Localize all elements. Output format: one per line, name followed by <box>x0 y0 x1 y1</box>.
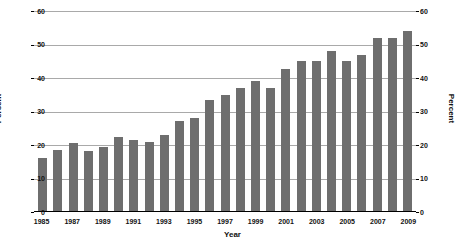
x-tick-label: 1991 <box>118 218 148 226</box>
y-tick-mark-left <box>31 145 34 146</box>
bar-slot <box>187 11 202 212</box>
y-tick-mark-right <box>416 145 419 146</box>
y-tick-label-right: 20 <box>420 142 446 149</box>
bar[interactable] <box>38 158 47 212</box>
bar[interactable] <box>266 88 275 212</box>
bar-slot <box>369 11 384 212</box>
bar-slot <box>339 11 354 212</box>
bar-slot <box>157 11 172 212</box>
bar-series <box>34 11 416 212</box>
y-tick-label-right: 60 <box>420 8 446 15</box>
y-tick-mark-left <box>31 179 34 180</box>
x-axis-line <box>34 211 416 213</box>
bar-slot <box>309 11 324 212</box>
bar[interactable] <box>69 143 78 212</box>
bar-slot <box>126 11 141 212</box>
bar[interactable] <box>281 69 290 212</box>
y-tick-mark-right <box>416 78 419 79</box>
y-tick-label-right: 0 <box>420 209 446 216</box>
bar-slot <box>248 11 263 212</box>
y-tick-label-right: 50 <box>420 41 446 48</box>
bar[interactable] <box>84 151 93 212</box>
y-tick-mark-right <box>416 112 419 113</box>
bar[interactable] <box>205 100 214 212</box>
x-tick-label: 1985 <box>27 218 57 226</box>
bar[interactable] <box>373 38 382 212</box>
bar[interactable] <box>251 81 260 212</box>
bar[interactable] <box>236 88 245 212</box>
bar[interactable] <box>357 55 366 212</box>
y-tick-mark-right <box>416 212 419 213</box>
bar-slot <box>263 11 278 212</box>
y-tick-label-right: 10 <box>420 175 446 182</box>
bar-chart: 0102030405060 0102030405060 198519871989… <box>0 0 465 242</box>
bar[interactable] <box>403 31 412 212</box>
x-axis-title: Year <box>0 230 465 239</box>
x-tick-label: 2001 <box>271 218 301 226</box>
y-tick-mark-left <box>31 78 34 79</box>
bar-slot <box>65 11 80 212</box>
bar-slot <box>141 11 156 212</box>
bar[interactable] <box>145 142 154 212</box>
y-axis-title-right: Percent <box>447 94 456 123</box>
y-tick-mark-right <box>416 11 419 12</box>
bar-slot <box>217 11 232 212</box>
bar[interactable] <box>129 140 138 212</box>
bar[interactable] <box>221 95 230 212</box>
bar[interactable] <box>160 135 169 212</box>
y-tick-mark-left <box>31 112 34 113</box>
bar-slot <box>111 11 126 212</box>
bar[interactable] <box>327 51 336 212</box>
y-tick-mark-left <box>31 45 34 46</box>
x-tick-label: 2007 <box>363 218 393 226</box>
bar-slot <box>324 11 339 212</box>
bar-slot <box>293 11 308 212</box>
bar[interactable] <box>297 61 306 212</box>
x-tick-label: 2003 <box>302 218 332 226</box>
bar-slot <box>81 11 96 212</box>
x-tick-label: 1993 <box>149 218 179 226</box>
bar-slot <box>233 11 248 212</box>
y-tick-mark-right <box>416 45 419 46</box>
bar[interactable] <box>190 118 199 212</box>
bar-slot <box>400 11 415 212</box>
x-tick-label: 1997 <box>210 218 240 226</box>
bar[interactable] <box>53 150 62 212</box>
bar-slot <box>354 11 369 212</box>
chart-title-cropped <box>22 0 322 3</box>
x-tick-label: 2005 <box>332 218 362 226</box>
bar[interactable] <box>388 38 397 212</box>
x-tick-label: 1987 <box>57 218 87 226</box>
bar[interactable] <box>99 147 108 212</box>
x-tick-label: 1995 <box>179 218 209 226</box>
y-tick-label-right: 30 <box>420 108 446 115</box>
bar-slot <box>96 11 111 212</box>
y-tick-mark-left <box>31 212 34 213</box>
bar-slot <box>50 11 65 212</box>
y-tick-label-right: 40 <box>420 75 446 82</box>
bar-slot <box>385 11 400 212</box>
x-tick-label: 1999 <box>241 218 271 226</box>
y-tick-mark-right <box>416 179 419 180</box>
bar-slot <box>278 11 293 212</box>
x-tick-label: 2009 <box>393 218 423 226</box>
bar[interactable] <box>312 61 321 212</box>
bar-slot <box>172 11 187 212</box>
plot-area <box>34 11 416 212</box>
y-tick-mark-left <box>31 11 34 12</box>
x-tick-label: 1989 <box>88 218 118 226</box>
y-axis-title-left: Percent <box>0 94 3 123</box>
bar[interactable] <box>114 137 123 212</box>
bar-slot <box>202 11 217 212</box>
bar[interactable] <box>342 61 351 212</box>
bar[interactable] <box>175 121 184 212</box>
